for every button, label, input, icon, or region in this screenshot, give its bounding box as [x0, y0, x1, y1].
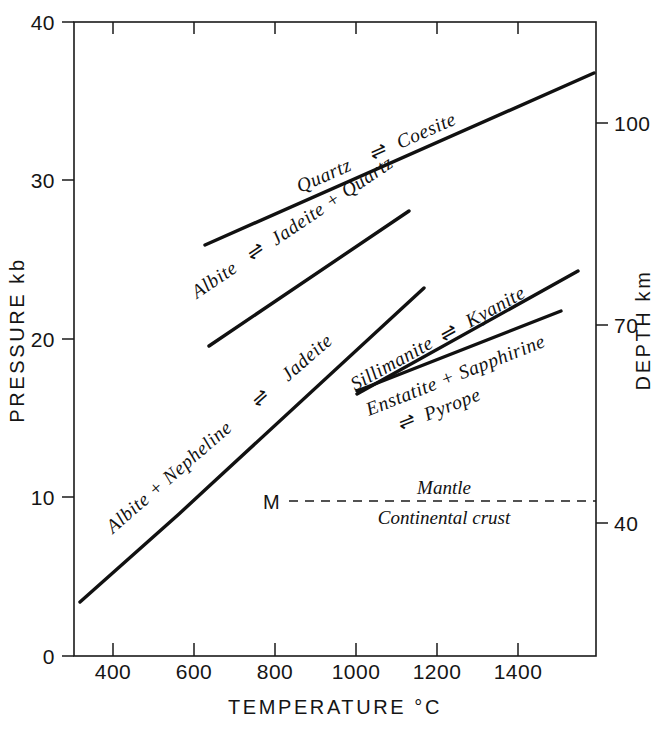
curve-albite-nepheline-jadeite: [80, 288, 424, 602]
y2-tick-label-100: 100: [614, 112, 651, 135]
y-axis-ticks: [62, 22, 74, 656]
y-axis-title: PRESSURE kb: [6, 257, 28, 422]
moho-marker-label: M: [263, 491, 280, 513]
label-albite-nepheline-jadeite: Albite + Nepheline ⇌ Jadeite: [100, 329, 336, 538]
y2-axis-title: DEPTH km: [632, 270, 654, 391]
x-tick-label-800: 800: [257, 660, 294, 683]
label-sillimanite-kyanite-product: Kyanite: [461, 282, 529, 332]
y-tick-label-40: 40: [31, 11, 55, 34]
label-albite-nepheline-jadeite-arrow: ⇌: [246, 384, 273, 412]
mantle-label: Mantle: [416, 477, 471, 498]
x-tick-label-600: 600: [176, 660, 213, 683]
label-quartz-coesite: Quartz ⇌ Coesite: [293, 108, 459, 197]
y-tick-label-0: 0: [43, 645, 55, 668]
label-albite-jadeite-quartz: Albite ⇌ Jadeite + Quartz: [186, 152, 397, 303]
y2-tick-label-40: 40: [614, 512, 638, 535]
x-axis-title: TEMPERATURE °C: [228, 696, 442, 718]
y-tick-label-10: 10: [31, 486, 55, 509]
x-axis-ticks: [113, 643, 518, 656]
label-sillimanite-kyanite-arrow: ⇌: [435, 319, 461, 346]
phase-diagram-svg: 400 600 800 1000 1200 1400 40 30 20 10 0…: [0, 0, 671, 732]
y-tick-label-20: 20: [31, 328, 55, 351]
x-tick-label-400: 400: [95, 660, 132, 683]
label-enstatite-sapphirine-pyrope: Enstatite + Sapphirine ⇌ Pyrope: [362, 330, 548, 435]
label-albite-jadeite-quartz-arrow: ⇌: [241, 238, 268, 265]
y2-axis-ticks: [596, 123, 608, 523]
y-tick-label-30: 30: [31, 169, 55, 192]
label-enstatite-sapphirine-pyrope-arrow: ⇌: [394, 409, 418, 435]
phase-diagram-figure: 400 600 800 1000 1200 1400 40 30 20 10 0…: [0, 0, 671, 732]
x-tick-label-1200: 1200: [413, 660, 462, 683]
x-tick-label-1400: 1400: [494, 660, 543, 683]
x-axis-top-ticks: [113, 22, 518, 34]
continental-crust-label: Continental crust: [378, 507, 511, 528]
x-tick-label-1000: 1000: [332, 660, 381, 683]
label-albite-nepheline-jadeite-reactant: Albite + Nepheline: [100, 417, 236, 539]
label-albite-jadeite-quartz-reactant: Albite: [186, 257, 241, 304]
